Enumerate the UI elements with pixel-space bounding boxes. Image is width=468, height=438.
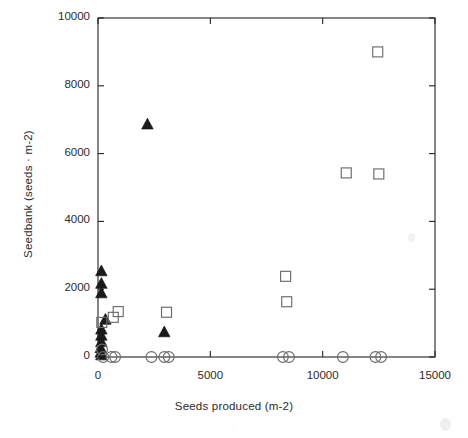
y-tick-label: 4000 bbox=[26, 213, 90, 225]
scan-smudge-secondary bbox=[408, 233, 415, 242]
data-point-square bbox=[282, 297, 292, 307]
data-point-square bbox=[341, 168, 351, 178]
y-tick-label: 2000 bbox=[26, 281, 90, 293]
scatter-plot-figure: 0200040006000800010000050001000015000 Se… bbox=[0, 0, 468, 438]
y-tick-label: 8000 bbox=[26, 78, 90, 90]
y-tick-label: 10000 bbox=[26, 10, 90, 22]
y-axis-title: Seedbank (seeds · m-2) bbox=[22, 104, 34, 284]
y-tick-label: 0 bbox=[26, 349, 90, 361]
data-point-square bbox=[373, 47, 383, 57]
series-filled-triangle bbox=[95, 118, 170, 360]
data-point-square bbox=[374, 169, 384, 179]
x-tick-label: 5000 bbox=[175, 369, 245, 381]
axis-ticks bbox=[98, 18, 435, 357]
axes-frame bbox=[98, 18, 435, 357]
scan-smudge bbox=[440, 418, 451, 431]
data-point-triangle bbox=[96, 287, 108, 298]
scan-ghost-caption: · bbox=[0, 424, 468, 435]
x-tick-label: 0 bbox=[63, 369, 133, 381]
data-markers bbox=[95, 47, 387, 363]
data-point-triangle bbox=[96, 265, 108, 276]
data-point-square bbox=[162, 307, 172, 317]
x-tick-label: 10000 bbox=[288, 369, 358, 381]
x-axis-title: Seeds produced (m-2) bbox=[0, 400, 468, 412]
data-point-triangle bbox=[142, 118, 154, 129]
data-point-triangle bbox=[159, 326, 171, 337]
y-tick-label: 6000 bbox=[26, 146, 90, 158]
data-point-square bbox=[281, 271, 291, 281]
series-open-square bbox=[97, 47, 384, 328]
x-tick-label: 15000 bbox=[400, 369, 468, 381]
series-open-circle bbox=[97, 344, 387, 362]
